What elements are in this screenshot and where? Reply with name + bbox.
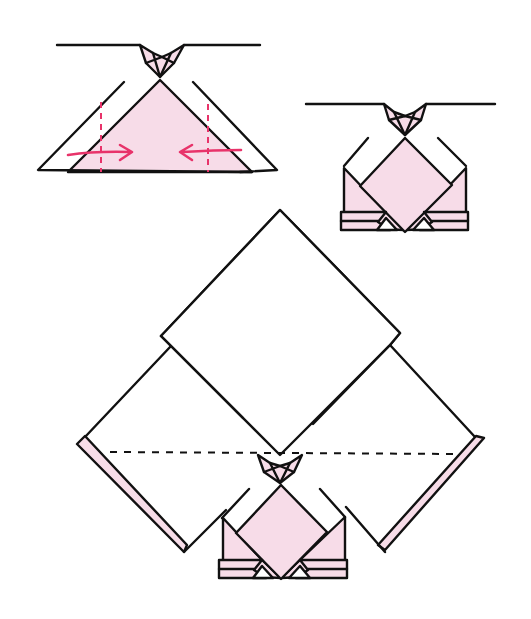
right-big-panel bbox=[390, 345, 475, 437]
step-3 bbox=[77, 210, 484, 579]
left-big-panel bbox=[85, 346, 171, 437]
mini-collar bbox=[258, 455, 302, 483]
left-edge-strip bbox=[77, 436, 187, 552]
step-1 bbox=[38, 45, 277, 172]
fold-line bbox=[110, 452, 460, 454]
step-2 bbox=[306, 104, 495, 232]
right-lower-edge bbox=[346, 507, 385, 552]
origami-diagram: Origami folding steps bbox=[0, 0, 531, 619]
pink-triangle bbox=[68, 80, 252, 172]
left-lower-edge bbox=[184, 510, 226, 552]
